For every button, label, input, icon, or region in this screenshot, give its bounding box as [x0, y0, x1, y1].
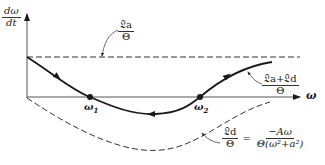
omega2-label: ω2	[194, 101, 208, 115]
lower-rhs-den: Θ(ω²+a²)	[255, 139, 306, 150]
point-omega1	[87, 94, 93, 100]
omega2-sub: 2	[204, 106, 209, 115]
omega2-base: ω	[194, 101, 204, 112]
equals-sign: =	[242, 133, 250, 144]
upper-label-den: Θ	[120, 32, 132, 43]
y-axis-label: dω dt	[2, 6, 21, 28]
omega1-sub: 1	[94, 106, 99, 115]
point-omega2	[197, 94, 203, 100]
lower-lhs-den: Θ	[224, 139, 236, 150]
omega1-label: ω1	[84, 101, 98, 115]
solid-label-num: 𝔏a+𝔏d	[262, 74, 299, 86]
lower-lhs-num: 𝔏d	[222, 127, 238, 139]
leader-upper	[102, 30, 118, 56]
x-axis-label: ω	[306, 90, 316, 101]
lower-rhs: −Aω Θ(ω²+a²)	[255, 127, 306, 149]
upper-dashed-label: 𝔏a Θ	[118, 20, 134, 42]
solid-curve-label: 𝔏a+𝔏d Θ	[262, 74, 299, 96]
y-label-num: dω	[2, 6, 21, 18]
solid-label-den: Θ	[274, 86, 286, 97]
solid-curve	[27, 57, 272, 114]
omega1-base: ω	[84, 101, 94, 112]
lower-lhs: 𝔏d Θ	[222, 127, 238, 149]
lower-curve-equation: 𝔏d Θ = −Aω Θ(ω²+a²)	[222, 127, 305, 149]
leader-solid	[248, 72, 262, 84]
lower-rhs-num: −Aω	[266, 127, 294, 139]
y-label-den: dt	[4, 18, 18, 29]
upper-label-num: 𝔏a	[118, 20, 134, 32]
